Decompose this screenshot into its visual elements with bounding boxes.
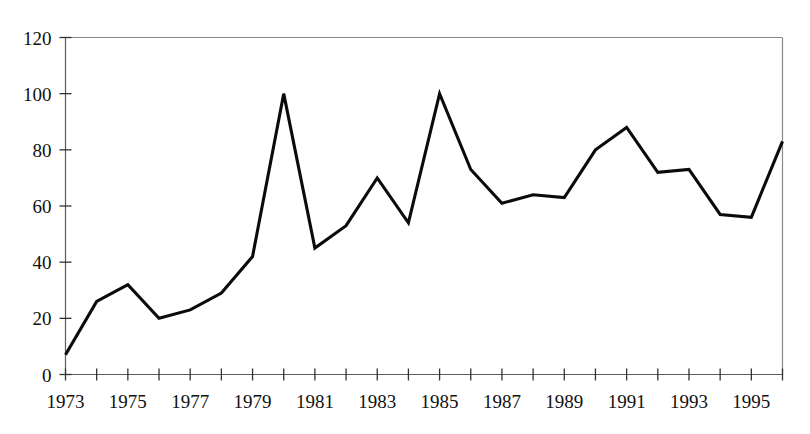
x-tick-label: 1993 <box>670 391 708 412</box>
x-tick-label: 1991 <box>608 391 646 412</box>
y-tick-label: 0 <box>42 365 52 386</box>
plot-frame <box>66 38 783 375</box>
x-axis-tick-labels: 1973197519771979198119831985198719891991… <box>47 391 771 412</box>
x-tick-label: 1983 <box>358 391 396 412</box>
x-tick-label: 1977 <box>171 391 209 412</box>
x-tick-label: 1975 <box>109 391 147 412</box>
y-tick-label: 60 <box>33 196 52 217</box>
y-tick-label: 100 <box>23 84 52 105</box>
data-series-group <box>66 94 783 355</box>
x-tick-label: 1987 <box>483 391 521 412</box>
x-tick-label: 1985 <box>421 391 459 412</box>
line-chart: 020406080100120 197319751977197919811983… <box>0 0 810 434</box>
y-tick-label: 20 <box>33 308 52 329</box>
x-tick-label: 1979 <box>234 391 272 412</box>
data-line-1 <box>66 94 783 355</box>
chart-canvas: 020406080100120 197319751977197919811983… <box>0 0 810 434</box>
x-tick-label: 1995 <box>732 391 770 412</box>
y-axis-tick-labels: 020406080100120 <box>23 28 52 386</box>
x-tick-label: 1973 <box>47 391 85 412</box>
y-tick-label: 120 <box>23 28 52 49</box>
y-tick-label: 40 <box>33 252 52 273</box>
x-tick-label: 1989 <box>545 391 583 412</box>
y-tick-label: 80 <box>33 140 52 161</box>
x-tick-label: 1981 <box>296 391 334 412</box>
